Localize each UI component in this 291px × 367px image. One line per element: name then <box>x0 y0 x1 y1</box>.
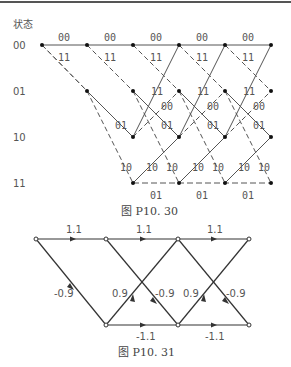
edges-10-01 <box>133 91 271 137</box>
weight-label: 1.1 <box>207 224 223 235</box>
weight-label: -0.9 <box>155 288 175 299</box>
weight-label: -0.9 <box>54 288 74 299</box>
edge-label: 11 <box>151 86 163 97</box>
edges-11-10 <box>133 137 271 183</box>
edge-label: 00 <box>150 32 162 43</box>
trellis-diagram-p10-31: 1.1 1.1 1.1 -0.9 0.9 -0.9 0.9 -0.9 -1.1 … <box>34 224 251 359</box>
weight-label: 0.9 <box>112 288 128 299</box>
edge-label: 10 <box>120 162 132 173</box>
weight-label: 1.1 <box>66 224 82 235</box>
edge-label: 11 <box>242 52 254 63</box>
edge-label: 10 <box>258 162 270 173</box>
edge-label: 11 <box>150 52 162 63</box>
edge-label: 01 <box>253 120 265 131</box>
trellis-diagram-p10-30: 状态 00 01 10 11 <box>13 18 273 218</box>
edge-label: 00 <box>207 101 219 112</box>
edge-label: 01 <box>115 120 127 131</box>
edge-label: 00 <box>161 101 173 112</box>
edge-label: 11 <box>196 52 208 63</box>
edge-label: 01 <box>196 190 208 201</box>
edge-label: 10 <box>192 162 204 173</box>
edge-label: 00 <box>104 32 116 43</box>
weight-label: 1.1 <box>136 224 152 235</box>
edge-label: 01 <box>242 190 254 201</box>
state-label-00: 00 <box>13 40 26 51</box>
figure-caption-p10-30: 图 P10. 30 <box>121 205 178 218</box>
edge-label: 10 <box>166 162 178 173</box>
figure-caption-p10-31: 图 P10. 31 <box>118 346 175 359</box>
weight-label: -1.1 <box>205 331 225 342</box>
edge-label: 00 <box>58 32 70 43</box>
edge-label: 11 <box>104 52 116 63</box>
state-label-01: 01 <box>13 86 26 97</box>
edge-label: 00 <box>242 32 254 43</box>
edge-label: 10 <box>238 162 250 173</box>
edge-label: 10 <box>212 162 224 173</box>
edge-label: 11 <box>58 52 70 63</box>
state-header: 状态 <box>13 18 33 30</box>
trellis-figures: 状态 00 01 10 11 <box>0 0 291 367</box>
edge-label: 10 <box>146 162 158 173</box>
edge-label: 01 <box>207 120 219 131</box>
state-label-10: 10 <box>13 132 26 143</box>
edge-label: 11 <box>197 86 209 97</box>
edge-label: 00 <box>253 101 265 112</box>
weight-label: 0.9 <box>183 288 199 299</box>
state-label-11: 11 <box>13 178 26 189</box>
edge-label: 01 <box>150 190 162 201</box>
edge-label: 01 <box>161 120 173 131</box>
edge-label: 00 <box>196 32 208 43</box>
weight-label: -0.9 <box>226 288 246 299</box>
edge-label: 11 <box>243 86 255 97</box>
weight-label: -1.1 <box>136 331 156 342</box>
